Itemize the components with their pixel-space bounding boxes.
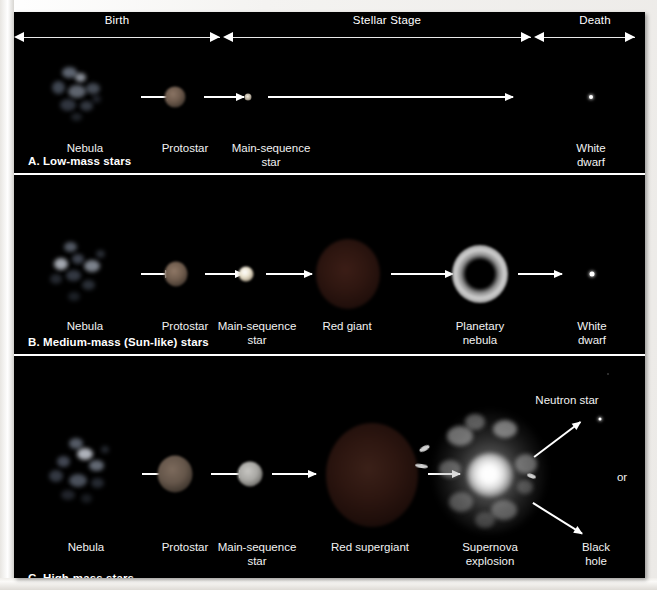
label-main-sequence-star-a: Main-sequence star	[232, 142, 311, 169]
label-main-sequence-star-c: Main-sequence star	[218, 541, 297, 568]
object-main-sequence-star-a	[245, 94, 252, 101]
paper-edge-bottom	[0, 578, 657, 590]
timeline-arrowhead-stellar-right	[521, 32, 531, 42]
timeline-axis-death	[544, 37, 635, 38]
arrow-planetary-nebula-to-white-dwarf-b	[518, 273, 562, 275]
timeline-axis-birth	[24, 37, 220, 38]
object-main-sequence-star-c	[238, 462, 263, 487]
timeline-arrowhead-death-right	[625, 32, 635, 42]
timeline-label-stellar-stage: Stellar Stage	[353, 14, 421, 26]
object-supernova-explosion-c	[431, 408, 549, 536]
panel-high-mass-stars: Neutron star or Black hole Nebula Protos…	[14, 356, 645, 578]
timeline-label-birth: Birth	[105, 14, 130, 26]
label-protostar-c: Protostar	[162, 541, 209, 555]
label-nebula-a: Nebula	[67, 142, 103, 156]
object-white-dwarf-a	[589, 95, 593, 99]
object-planetary-nebula-b	[452, 245, 508, 303]
caption-panel-a: A. Low-mass stars	[28, 155, 131, 167]
arrow-main-sequence-to-white-dwarf-a	[268, 96, 513, 98]
label-protostar-b: Protostar	[162, 320, 209, 334]
object-white-dwarf-b	[590, 272, 595, 277]
timeline-axis-stellar-stage	[233, 37, 531, 38]
object-nebula-a	[42, 59, 128, 135]
arrow-red-giant-to-planetary-nebula-b	[391, 273, 453, 275]
object-protostar-b	[165, 262, 188, 287]
label-red-giant-b: Red giant	[322, 320, 371, 334]
arrow-protostar-to-main-sequence-a	[204, 96, 244, 98]
caption-panel-b: B. Medium-mass (Sun-like) stars	[28, 336, 209, 348]
label-planetary-nebula-b: Planetary nebula	[456, 320, 505, 347]
object-protostar-c	[158, 456, 193, 493]
timeline-arrowhead-birth-right	[210, 32, 220, 42]
label-supernova-explosion-c: Supernova explosion	[462, 541, 518, 568]
timeline-arrowhead-stellar-left	[223, 32, 233, 42]
arrow-main-sequence-to-red-supergiant-c	[272, 473, 316, 475]
paper-edge-left	[0, 0, 14, 590]
caption-panel-c: C. High-mass stars	[28, 572, 134, 578]
object-nebula-c	[43, 436, 129, 512]
label-white-dwarf-b: White dwarf	[566, 320, 619, 347]
background-speck	[607, 373, 609, 375]
object-protostar-a	[165, 87, 186, 108]
timeline-header: Birth Stellar Stage Death	[14, 12, 645, 50]
timeline-arrowhead-death-left	[534, 32, 544, 42]
label-red-supergiant-c: Red supergiant	[331, 541, 409, 555]
label-black-hole: Black hole	[572, 541, 621, 568]
timeline-arrowhead-birth-left	[14, 32, 24, 42]
object-main-sequence-star-b	[239, 267, 254, 282]
object-red-giant-b	[316, 239, 380, 309]
panel-medium-mass-stars: Nebula Protostar Main-sequence star Red …	[14, 175, 645, 354]
page-background: Birth Stellar Stage Death	[0, 0, 657, 590]
label-nebula-b: Nebula	[67, 320, 103, 334]
timeline-label-death: Death	[579, 14, 611, 26]
label-protostar-a: Protostar	[162, 142, 209, 156]
label-white-dwarf-a: White dwarf	[564, 142, 618, 169]
label-main-sequence-star-b: Main-sequence star	[218, 320, 297, 347]
arrow-main-sequence-to-red-giant-b	[266, 273, 312, 275]
label-or-connector: or	[617, 471, 627, 485]
label-nebula-c: Nebula	[68, 541, 104, 555]
object-nebula-b	[42, 236, 128, 312]
label-neutron-star: Neutron star	[535, 394, 598, 408]
panel-low-mass-stars: Nebula Protostar Main-sequence star Whit…	[14, 50, 645, 173]
object-red-supergiant-c	[326, 423, 418, 527]
object-neutron-star-point	[599, 418, 602, 421]
stellar-evolution-figure: Birth Stellar Stage Death	[14, 12, 645, 578]
arrow-protostar-to-main-sequence-b	[205, 273, 243, 275]
